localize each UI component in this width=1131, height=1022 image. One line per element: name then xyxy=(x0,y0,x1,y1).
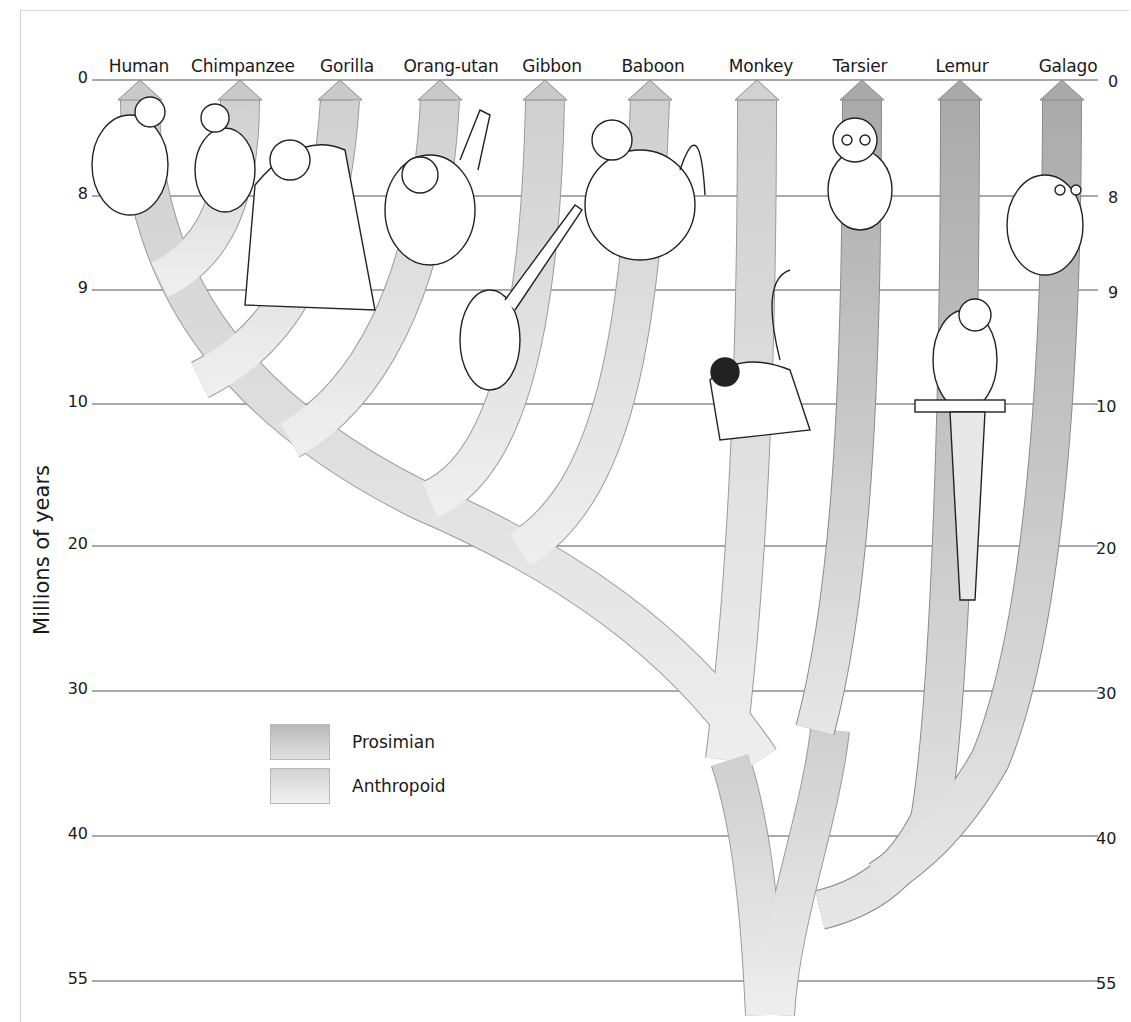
tick-left-40: 40 xyxy=(62,824,88,843)
arrowheads xyxy=(118,80,1084,100)
human-illustration xyxy=(92,97,168,215)
species-label-gibbon: Gibbon xyxy=(522,56,581,76)
legend-swatch-anthropoid xyxy=(270,768,330,804)
species-label-gorilla: Gorilla xyxy=(320,56,374,76)
tick-left-55: 55 xyxy=(62,969,88,988)
legend-swatch-prosimian xyxy=(270,724,330,760)
tick-right-40: 40 xyxy=(1096,829,1116,848)
gorilla-illustration xyxy=(245,140,375,310)
tarsier-illustration xyxy=(828,118,892,230)
species-label-orang-utan: Orang-utan xyxy=(403,56,498,76)
y-axis-title: Millions of years xyxy=(30,465,54,635)
species-label-human: Human xyxy=(109,56,169,76)
legend: Prosimian Anthropoid xyxy=(270,720,446,808)
legend-item-prosimian: Prosimian xyxy=(270,720,446,764)
tick-left-20: 20 xyxy=(62,534,88,553)
species-label-lemur: Lemur xyxy=(936,56,989,76)
legend-label: Anthropoid xyxy=(352,776,446,796)
tick-left-8: 8 xyxy=(62,184,88,203)
tick-right-30: 30 xyxy=(1096,684,1116,703)
tick-left-0: 0 xyxy=(62,68,88,87)
species-label-baboon: Baboon xyxy=(621,56,684,76)
species-label-monkey: Monkey xyxy=(729,56,793,76)
species-label-galago: Galago xyxy=(1039,56,1098,76)
legend-label: Prosimian xyxy=(352,732,435,752)
species-label-tarsier: Tarsier xyxy=(833,56,888,76)
galago-illustration xyxy=(1007,175,1083,275)
tick-right-0: 0 xyxy=(1108,72,1118,91)
tick-left-30: 30 xyxy=(62,679,88,698)
tick-right-10: 10 xyxy=(1096,397,1116,416)
tick-left-10: 10 xyxy=(62,392,88,411)
tick-right-55: 55 xyxy=(1096,974,1116,993)
tick-left-9: 9 xyxy=(62,278,88,297)
tick-right-20: 20 xyxy=(1096,539,1116,558)
tick-right-8: 8 xyxy=(1108,188,1118,207)
anthropoid-branches xyxy=(140,100,830,1015)
legend-item-anthropoid: Anthropoid xyxy=(270,764,446,808)
lemur-illustration xyxy=(915,299,1005,600)
species-label-chimpanzee: Chimpanzee xyxy=(191,56,295,76)
tick-right-9: 9 xyxy=(1108,283,1118,302)
